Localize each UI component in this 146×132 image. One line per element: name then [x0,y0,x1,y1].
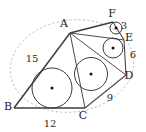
length-label-side-DE: 6 [130,49,136,60]
vertex-label-E: E [125,31,133,44]
incenter-dots-group [51,27,118,90]
length-label-side-BC: 12 [44,118,57,129]
incircle-AEF-center-dot [115,27,118,30]
length-label-side-EF: 3 [121,20,127,31]
edge-FA [70,22,113,33]
vertex-label-B: B [4,100,12,113]
incircle-ABC-center-dot [51,87,54,90]
incircle-ADE-center-dot [112,47,115,50]
vertex-label-C: C [79,109,87,122]
circumcircle-group [4,12,140,120]
incircle-ACD-center-dot [90,73,93,76]
vertex-label-A: A [59,17,69,30]
edge-CD [85,75,126,108]
length-label-side-AB: 15 [26,53,39,64]
diagonal-AC [70,33,85,108]
geometry-figure: ABCDEF 1512963 [0,0,146,132]
vertex-label-D: D [125,69,134,82]
length-label-side-CD: 9 [107,92,113,103]
figure-canvas: ABCDEF 1512963 [0,0,146,132]
vertex-label-F: F [108,7,116,20]
diagonals-group [70,33,126,108]
circumscribed-ellipse [4,12,140,120]
